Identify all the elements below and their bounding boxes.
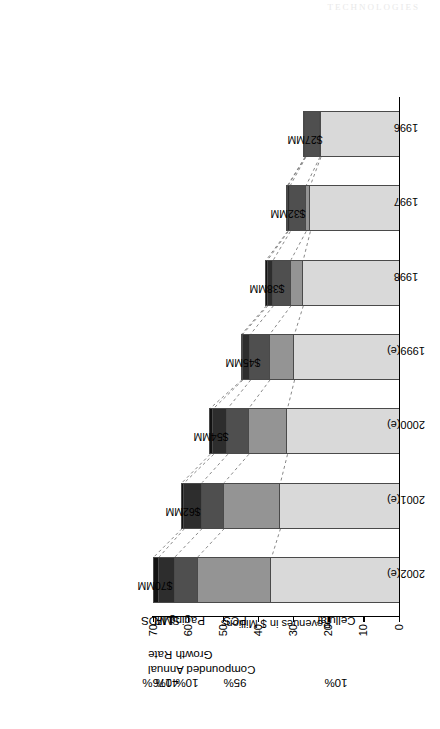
bar-segment-paging: [201, 483, 223, 529]
bar-stack: $27MM1996: [303, 111, 398, 157]
bar-segment-cellular: [302, 260, 399, 306]
bar-segment-pcs: [248, 408, 287, 454]
legend-heading-line2: Growth Rate: [148, 647, 255, 662]
value-axis-tick-label: 20: [322, 624, 334, 636]
value-axis-tick: [363, 617, 364, 622]
legend-heading-line1: Compounded Annual: [148, 662, 255, 677]
category-axis-label: 2001(e): [387, 494, 425, 506]
plot-area: Revenues in $ Millions 010203040506070 $…: [152, 97, 400, 617]
bar-total-label: $62MM: [165, 506, 200, 518]
bar-stack: $54MM2000(e): [209, 408, 399, 454]
value-axis-tick: [399, 617, 400, 622]
growth-rate-pcs: 95%: [223, 677, 246, 689]
value-axis-tick-label: 30: [287, 624, 299, 636]
bar-stack: $38MM1998: [265, 260, 399, 306]
value-axis-tick: [223, 617, 224, 622]
bar-stack: $45MM1999(e): [241, 334, 399, 380]
category-axis-label: 1998: [393, 271, 417, 283]
figure-page: TECHNOLOGIES Compounded Annual Growth Ra…: [0, 0, 440, 729]
value-axis-tick-label: 50: [217, 624, 229, 636]
bar-segment-pcs: [197, 557, 271, 603]
category-axis-label: 1997: [393, 196, 417, 208]
value-axis-tick: [293, 617, 294, 622]
value-axis-tick: [328, 617, 329, 622]
category-axis-label: 1999(e): [387, 345, 425, 357]
value-axis-tick-label: 10: [357, 624, 369, 636]
value-axis-tick: [188, 617, 189, 622]
running-header: TECHNOLOGIES: [170, 2, 420, 12]
value-axis-tick-label: 60: [182, 624, 194, 636]
category-axis-line: [399, 97, 400, 617]
category-axis-label: 2002(e): [387, 568, 425, 580]
bar-stack: $70MM2002(e): [153, 557, 399, 603]
growth-rate-cellular: 10%: [324, 677, 347, 689]
bar-segment-pcs: [290, 260, 302, 306]
figure-caption: Figure 9.1 U.S. Wireless Revenue Subscri…: [436, 723, 440, 729]
bar-total-label: $38MM: [250, 283, 285, 295]
bar-stack: $62MM2001(e): [181, 483, 399, 529]
chart-figure: Compounded Annual Growth Rate Cellular10…: [20, 19, 420, 709]
value-axis-title: Revenues in $ Millions: [221, 618, 331, 630]
value-axis-tick-label: 70: [147, 624, 159, 636]
value-axis-tick: [258, 617, 259, 622]
bar-total-label: $70MM: [137, 580, 172, 592]
bar-total-label: $27MM: [288, 134, 323, 146]
bar-segment-cellular: [320, 111, 399, 157]
category-axis-label: 2000(e): [387, 419, 425, 431]
value-axis-tick-label: 40: [252, 624, 264, 636]
growth-rate-lmds: 176%: [142, 677, 171, 689]
bar-segment-paging: [226, 408, 247, 454]
legend-heading: Compounded Annual Growth Rate: [148, 647, 255, 677]
bar-segment-paging: [174, 557, 197, 603]
bar-segment-cellular: [293, 334, 398, 380]
value-axis-tick: [153, 617, 154, 622]
bar-segment-pcs: [269, 334, 294, 380]
bar-total-label: $45MM: [225, 357, 260, 369]
bar-total-label: $32MM: [270, 208, 305, 220]
bar-segment-pcs: [223, 483, 279, 529]
bar-total-label: $54MM: [193, 431, 228, 443]
bar-segment-cellular: [309, 185, 399, 231]
bar-stack: $32MM1997: [286, 185, 399, 231]
value-axis-tick-label: 0: [393, 624, 405, 630]
bar-segment-cellular: [286, 408, 398, 454]
bar-segment-cellular: [279, 483, 398, 529]
category-axis-label: 1996: [393, 122, 417, 134]
bar-segment-cellular: [270, 557, 398, 603]
